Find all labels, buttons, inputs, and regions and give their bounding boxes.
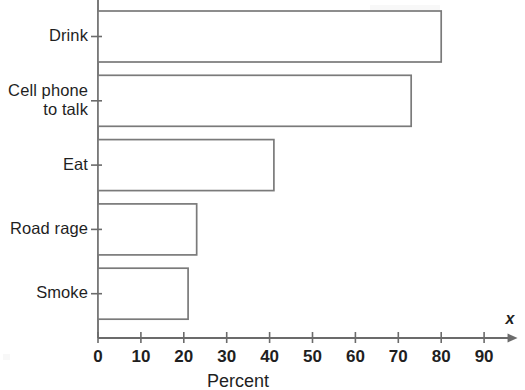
xtick-label-10: 10	[119, 347, 163, 367]
bar-3[interactable]	[98, 204, 197, 255]
category-label-cell-phone: Cell phone to talk	[0, 81, 88, 119]
category-label-drink: Drink	[0, 26, 88, 45]
bar-1[interactable]	[98, 75, 411, 126]
xtick-label-40: 40	[248, 347, 292, 367]
xtick-label-70: 70	[376, 347, 420, 367]
xtick-label-90: 90	[462, 347, 506, 367]
xtick-label-50: 50	[291, 347, 335, 367]
bar-4[interactable]	[98, 268, 188, 319]
xtick-label-30: 30	[205, 347, 249, 367]
xtick-label-80: 80	[419, 347, 463, 367]
chart-canvas	[0, 0, 525, 390]
xtick-label-60: 60	[333, 347, 377, 367]
category-label-smoke: Smoke	[0, 283, 88, 302]
bar-chart: Drink Cell phone to talk Eat Road rage S…	[0, 0, 525, 390]
bar-2[interactable]	[98, 140, 274, 191]
category-label-eat: Eat	[0, 155, 88, 174]
x-axis-variable-name: x	[506, 310, 515, 328]
bar-0[interactable]	[98, 11, 441, 62]
x-axis-title: Percent	[158, 371, 318, 390]
x-axis-arrow-icon	[508, 334, 518, 343]
xtick-label-0: 0	[76, 347, 120, 367]
xtick-label-20: 20	[162, 347, 206, 367]
category-label-road-rage: Road rage	[0, 219, 88, 238]
